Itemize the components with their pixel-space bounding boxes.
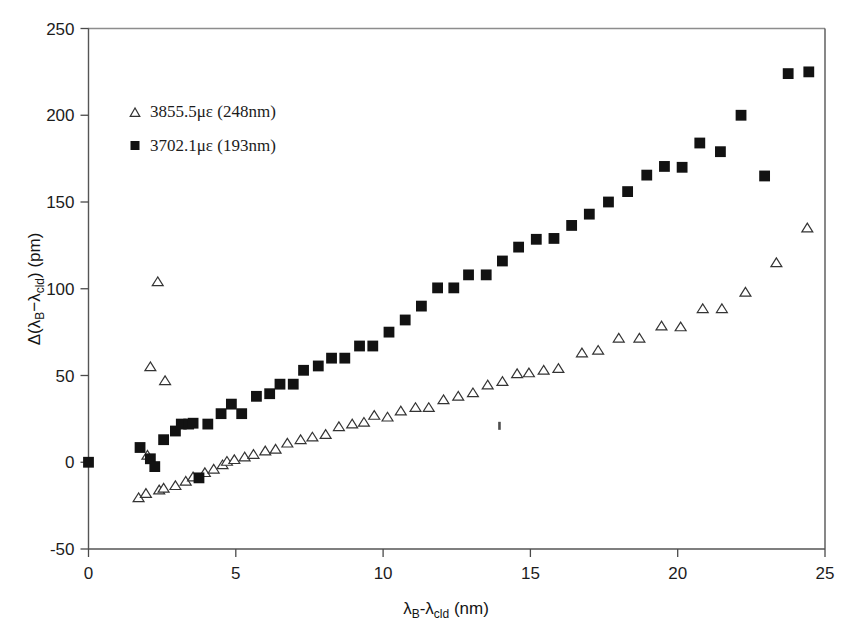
filled-square-icon	[131, 141, 140, 150]
data-point-square	[149, 461, 160, 472]
data-point-square	[384, 327, 395, 338]
legend-1-value: 3702.1	[150, 136, 197, 155]
svg-text:3702.1με (193nm): 3702.1με (193nm)	[150, 136, 276, 155]
data-point-square	[288, 379, 299, 390]
data-point-square	[783, 68, 794, 79]
x-tick-label: 20	[668, 564, 687, 583]
x-tick-label: 5	[231, 564, 240, 583]
data-point-square	[313, 361, 324, 372]
data-point-square	[158, 434, 169, 445]
data-point-square	[531, 234, 542, 245]
y-title-sub1: B	[33, 312, 47, 320]
legend-entry-0: 3855.5με (248nm)	[130, 102, 276, 121]
data-point-square	[432, 282, 443, 293]
legend-entry-1: 3702.1με (193nm)	[131, 136, 276, 155]
data-point-square	[275, 379, 286, 390]
data-point-square	[463, 269, 474, 280]
scan-speck	[498, 422, 501, 430]
data-point-square	[497, 256, 508, 267]
legend-0-value: 3855.5	[150, 102, 197, 121]
data-point-square	[216, 408, 227, 419]
data-point-square	[202, 419, 213, 430]
y-title-mid: −λ	[25, 293, 44, 312]
legend-1-paren: (193nm)	[213, 136, 276, 155]
figure-container: -50050100150200250 0510152025 Δ(λB−λcld)…	[0, 0, 856, 631]
data-point-square	[298, 365, 309, 376]
data-point-square	[803, 66, 814, 77]
data-point-square	[622, 186, 633, 197]
data-point-square	[513, 242, 524, 253]
data-point-square	[354, 341, 365, 352]
data-point-square	[226, 399, 237, 410]
data-point-square	[236, 408, 247, 419]
scan-artifact-layer	[498, 422, 501, 430]
svg-text:3855.5με (248nm): 3855.5με (248nm)	[150, 102, 276, 121]
y-tick-label: 150	[46, 193, 74, 212]
y-tick-label: 250	[46, 20, 74, 39]
data-point-square	[416, 301, 427, 312]
data-point-square	[641, 170, 652, 181]
x-title-tail: (nm)	[449, 599, 489, 618]
data-point-square	[83, 457, 94, 468]
data-point-square	[135, 442, 146, 453]
data-point-square	[481, 269, 492, 280]
data-point-square	[326, 353, 337, 364]
x-tick-label: 0	[84, 564, 93, 583]
data-point-square	[367, 341, 378, 352]
data-point-square	[715, 146, 726, 157]
data-point-square	[400, 315, 411, 326]
data-point-square	[584, 209, 595, 220]
data-point-square	[251, 391, 262, 402]
data-point-square	[339, 353, 350, 364]
data-point-square	[659, 161, 670, 172]
x-title-sub2: cld	[434, 607, 449, 621]
y-title-sub2: cld	[33, 278, 47, 293]
data-point-square	[694, 138, 705, 149]
data-point-square	[736, 110, 747, 121]
x-tick-label: 25	[816, 564, 835, 583]
x-tick-label: 10	[374, 564, 393, 583]
legend-0-paren: (248nm)	[213, 102, 276, 121]
data-point-square	[194, 472, 205, 483]
data-point-square	[448, 282, 459, 293]
x-title-sub1: B	[412, 607, 420, 621]
legend-1-unit: με	[197, 136, 213, 155]
x-tick-label: 15	[521, 564, 540, 583]
data-point-square	[677, 162, 688, 173]
data-point-square	[188, 418, 199, 429]
y-tick-label: 0	[65, 453, 74, 472]
data-point-square	[603, 197, 614, 208]
y-tick-label: 50	[56, 367, 75, 386]
data-point-square	[264, 388, 275, 399]
y-tick-label: 100	[46, 280, 74, 299]
chart-background	[0, 0, 856, 631]
x-title-mid: -λ	[420, 599, 435, 618]
scatter-chart: -50050100150200250 0510152025 Δ(λB−λcld)…	[0, 0, 856, 631]
legend-0-unit: με	[197, 102, 213, 121]
data-point-square	[566, 220, 577, 231]
data-point-square	[759, 171, 770, 182]
data-point-square	[549, 233, 560, 244]
y-tick-label: 200	[46, 106, 74, 125]
y-title-tail: ) (pm)	[25, 233, 44, 278]
y-tick-label: -50	[50, 540, 75, 559]
y-title-lead: Δ(λ	[25, 319, 44, 345]
